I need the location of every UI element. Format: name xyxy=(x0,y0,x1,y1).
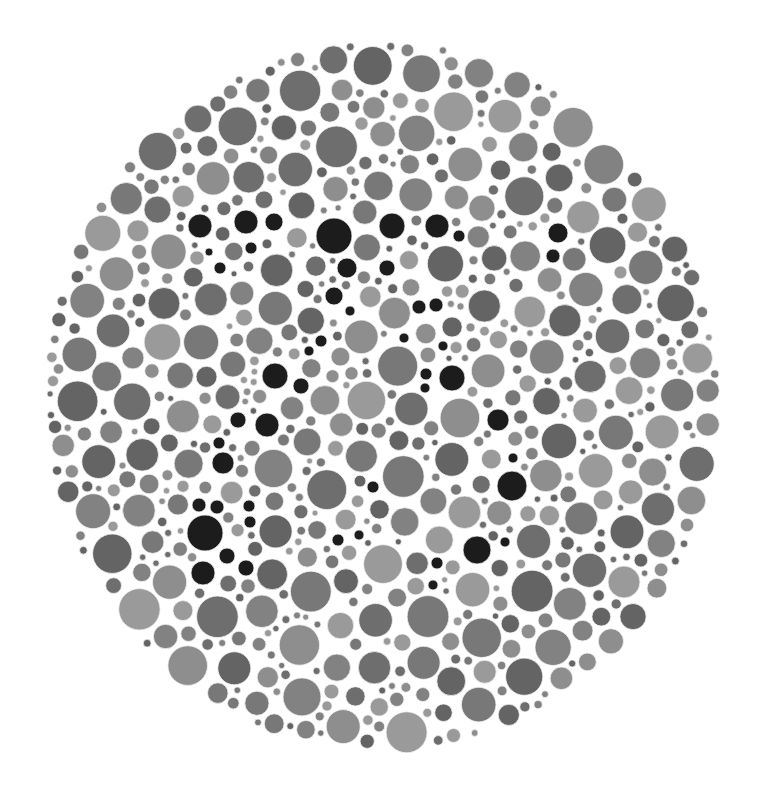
background-dot xyxy=(248,532,256,540)
background-dot xyxy=(545,164,573,192)
background-dot xyxy=(106,578,122,594)
background-dot xyxy=(85,265,92,272)
background-dot xyxy=(346,687,365,706)
background-dot xyxy=(190,440,197,447)
background-dot xyxy=(279,625,319,665)
background-dot xyxy=(64,424,71,431)
background-dot xyxy=(440,398,480,438)
background-dot xyxy=(167,494,188,515)
background-dot xyxy=(390,115,397,122)
background-dot xyxy=(471,354,505,388)
background-dot xyxy=(297,281,314,298)
background-dot xyxy=(229,444,237,452)
background-dot xyxy=(596,306,602,312)
background-dot xyxy=(390,161,396,167)
background-dot xyxy=(657,334,670,347)
background-dot xyxy=(331,347,350,366)
background-dot xyxy=(257,559,288,590)
background-dot xyxy=(445,560,460,575)
background-dot xyxy=(400,251,419,270)
background-dot xyxy=(521,463,529,471)
background-dot xyxy=(297,547,317,567)
background-dot xyxy=(195,588,205,598)
figure-dot xyxy=(245,242,257,254)
background-dot xyxy=(407,646,440,679)
background-dot xyxy=(123,494,156,527)
background-dot xyxy=(433,736,443,746)
background-dot xyxy=(244,440,260,456)
background-dot xyxy=(400,155,419,174)
background-dot xyxy=(74,244,89,259)
background-dot xyxy=(330,319,338,327)
background-dot xyxy=(576,546,583,553)
background-dot xyxy=(435,704,453,722)
background-dot xyxy=(634,554,648,568)
background-dot xyxy=(581,183,592,194)
background-dot xyxy=(319,46,347,74)
background-dot xyxy=(350,193,357,200)
background-dot xyxy=(464,59,493,88)
background-dot xyxy=(509,278,523,292)
figure-dot xyxy=(429,298,443,312)
background-dot xyxy=(291,53,305,67)
background-dot xyxy=(131,428,138,435)
background-dot xyxy=(560,486,577,503)
figure-dot xyxy=(367,481,379,493)
background-dot xyxy=(506,658,543,695)
background-dot xyxy=(313,667,320,674)
background-dot xyxy=(402,279,419,296)
background-dot xyxy=(620,604,646,630)
background-dot xyxy=(488,99,522,133)
background-dot xyxy=(462,618,501,657)
background-dot xyxy=(498,704,519,725)
background-dot xyxy=(555,552,571,568)
background-dot xyxy=(345,367,358,380)
figure-dot xyxy=(487,409,509,431)
background-dot xyxy=(264,714,284,734)
background-dot xyxy=(252,638,266,652)
background-dot xyxy=(610,515,644,549)
background-dot xyxy=(144,179,159,194)
background-dot xyxy=(530,96,551,117)
color-vision-plate: Color vision test plate xyxy=(0,0,763,786)
background-dot xyxy=(297,307,324,334)
background-dot xyxy=(322,701,332,711)
background-dot xyxy=(158,517,167,526)
background-dot xyxy=(320,207,327,214)
background-dot xyxy=(318,730,324,736)
background-dot xyxy=(71,271,83,283)
figure-dot xyxy=(332,534,344,546)
background-dot xyxy=(595,319,629,353)
background-dot xyxy=(420,488,447,515)
background-dot xyxy=(393,93,409,109)
background-dot xyxy=(467,386,478,397)
background-dot xyxy=(434,92,474,132)
background-dot xyxy=(165,529,172,536)
background-dot xyxy=(265,66,275,76)
background-dot xyxy=(471,730,478,737)
background-dot xyxy=(250,356,259,365)
background-dot xyxy=(356,89,364,97)
background-dot xyxy=(199,481,212,494)
background-dot xyxy=(572,339,584,351)
background-dot xyxy=(77,427,91,441)
background-dot xyxy=(578,238,585,245)
background-dot xyxy=(345,440,377,472)
figure-dot xyxy=(212,452,234,474)
background-dot xyxy=(173,542,187,556)
background-dot xyxy=(225,242,243,260)
background-dot xyxy=(362,369,371,378)
background-dot xyxy=(350,638,362,650)
background-dot xyxy=(52,434,74,456)
background-dot xyxy=(553,107,593,147)
background-dot xyxy=(173,601,193,621)
background-dot xyxy=(48,376,59,387)
background-dot xyxy=(208,683,229,704)
background-dot xyxy=(145,364,159,378)
background-dot xyxy=(220,575,237,592)
background-dot xyxy=(176,224,184,232)
background-dot xyxy=(316,458,325,467)
background-dot xyxy=(230,333,244,347)
background-dot xyxy=(469,195,495,221)
figure-dot xyxy=(188,214,212,238)
